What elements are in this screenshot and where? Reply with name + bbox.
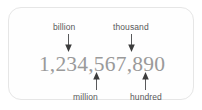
place-value-number: 1,234,567,890	[9, 52, 195, 76]
callout-label-hundred: hundred	[130, 92, 162, 102]
arrow-down-icon	[127, 34, 136, 52]
arrow-up-icon	[141, 72, 150, 90]
arrow-down-icon	[64, 34, 73, 52]
arrow-up-icon	[92, 72, 101, 90]
callout-label-billion: billion	[53, 22, 75, 32]
callout-label-thousand: thousand	[113, 22, 149, 32]
place-value-diagram-card: billion thousand 1,234,567,890 million h…	[8, 7, 194, 100]
callout-label-million: million	[73, 92, 98, 102]
